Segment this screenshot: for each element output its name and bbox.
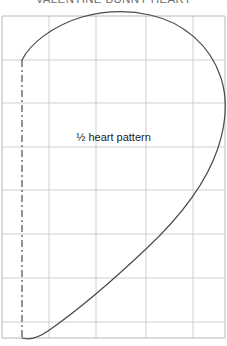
pattern-page: VALENTINE BUNNY HEART ½ heart pattern — [0, 0, 227, 346]
grid-vertical-lines — [2, 16, 225, 338]
pattern-svg — [0, 0, 227, 346]
grid — [2, 16, 225, 338]
half-heart-outline — [22, 12, 225, 339]
pattern-label: ½ heart pattern — [0, 130, 227, 144]
grid-horizontal-lines — [2, 16, 225, 338]
pattern-drawing-area — [0, 0, 227, 346]
